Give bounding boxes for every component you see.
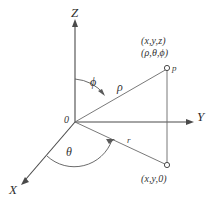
projection-point-label: (x,y,0) bbox=[141, 174, 167, 184]
point-p-marker bbox=[164, 65, 169, 70]
rho-segment bbox=[75, 69, 167, 122]
z-axis-label: Z bbox=[71, 6, 79, 19]
phi-angle-label: ϕ bbox=[90, 76, 96, 88]
x-axis-label: X bbox=[9, 183, 17, 196]
phi-arc-arrowhead bbox=[98, 89, 105, 96]
y-axis-label: Y bbox=[197, 110, 205, 123]
x-axis-arrowhead bbox=[21, 177, 29, 185]
projection-point-marker bbox=[164, 162, 169, 167]
origin-label: 0 bbox=[64, 115, 69, 125]
r-segment-label: r bbox=[127, 136, 131, 145]
diagram-canvas bbox=[0, 0, 215, 204]
rho-segment-label: ρ bbox=[117, 81, 123, 93]
spherical-coordinates-diagram: Z Y X 0 ϕ θ ρ r (x,y,z) (ρ,θ,ϕ) p (x,y,0… bbox=[0, 0, 215, 204]
r-segment bbox=[75, 122, 167, 165]
point-p-spherical-label: (ρ,θ,ϕ) bbox=[141, 48, 168, 58]
y-axis-arrowhead bbox=[186, 119, 194, 125]
point-p-cartesian-label: (x,y,z) bbox=[141, 36, 166, 46]
theta-angle-label: θ bbox=[66, 146, 72, 158]
point-p-marker-label: p bbox=[172, 64, 177, 73]
z-axis-arrowhead bbox=[72, 19, 78, 27]
